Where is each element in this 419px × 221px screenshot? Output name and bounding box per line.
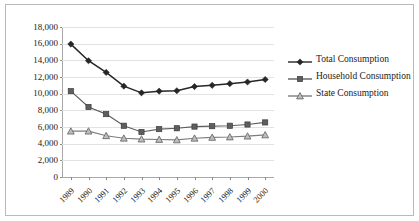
- x-axis-tick-mark: [177, 177, 178, 180]
- y-axis-tick-label: 2,000: [10, 156, 58, 165]
- x-axis-tick-mark: [195, 177, 196, 180]
- x-axis-tick-label: 1995: [159, 186, 182, 209]
- legend-diamond-icon: [287, 54, 313, 66]
- series-square: [68, 89, 268, 135]
- y-axis-tick-label: 4,000: [10, 139, 58, 148]
- legend-item: State Consumption: [287, 85, 419, 102]
- data-point-marker: [210, 124, 215, 129]
- x-axis-tick-mark: [89, 177, 90, 180]
- legend-label: State Consumption: [316, 88, 389, 99]
- x-axis-tick-mark: [124, 177, 125, 180]
- series-layer: [62, 27, 274, 177]
- plot-area: [62, 27, 274, 177]
- y-axis-tick-label: 18,000: [10, 23, 58, 32]
- x-axis-tick-mark: [142, 177, 143, 180]
- series-triangle: [67, 128, 268, 143]
- x-axis-tick-label: 1989: [53, 186, 76, 209]
- x-axis-tick-label: 1996: [176, 186, 199, 209]
- x-axis-tick-label: 1999: [229, 186, 252, 209]
- data-point-marker: [139, 129, 144, 134]
- x-axis-tick-label: 2000: [247, 186, 270, 209]
- series-line: [71, 91, 265, 132]
- data-point-marker: [104, 111, 109, 116]
- x-axis-tick-mark: [248, 177, 249, 180]
- x-axis-tick-label: 1992: [106, 186, 129, 209]
- chart-frame: 02,0004,0006,0008,00010,00012,00014,0001…: [5, 4, 414, 216]
- x-axis-tick-label: 1997: [194, 186, 217, 209]
- x-axis-tick-label: 1994: [141, 186, 164, 209]
- data-point-marker: [174, 126, 179, 131]
- data-point-marker: [262, 76, 268, 82]
- y-axis-tick-label: 10,000: [10, 89, 58, 98]
- y-axis-tick-label: 14,000: [10, 56, 58, 65]
- data-point-marker: [138, 90, 144, 96]
- series-line: [71, 131, 265, 140]
- data-point-marker: [191, 83, 197, 89]
- data-point-marker: [192, 124, 197, 129]
- series-line: [71, 44, 265, 93]
- data-point-marker: [209, 82, 215, 88]
- y-axis-tick-label: 16,000: [10, 39, 58, 48]
- legend-square-icon: [287, 71, 313, 83]
- x-axis-tick-label: 1990: [70, 186, 93, 209]
- data-point-marker: [227, 81, 233, 87]
- y-axis-tick-labels: 02,0004,0006,0008,00010,00012,00014,0001…: [8, 27, 58, 177]
- data-point-marker: [157, 126, 162, 131]
- chart-figure: 02,0004,0006,0008,00010,00012,00014,0001…: [0, 0, 419, 221]
- x-axis-tick-label: 1991: [88, 186, 111, 209]
- x-axis-tick-label: 1993: [123, 186, 146, 209]
- data-point-marker: [227, 123, 232, 128]
- gridline: [62, 177, 274, 178]
- data-point-marker: [121, 123, 126, 128]
- x-axis-tick-mark: [212, 177, 213, 180]
- data-point-marker: [244, 79, 250, 85]
- x-axis-tick-mark: [106, 177, 107, 180]
- legend-label: Household Consumption: [316, 71, 411, 82]
- data-point-marker: [68, 89, 73, 94]
- y-axis-tick-label: 0: [10, 173, 58, 182]
- y-axis-tick-label: 12,000: [10, 73, 58, 82]
- data-point-marker: [263, 120, 268, 125]
- data-point-marker: [86, 104, 91, 109]
- legend-item: Household Consumption: [287, 68, 419, 85]
- chart-legend: Total ConsumptionHousehold ConsumptionSt…: [287, 51, 419, 102]
- x-axis-tick-mark: [71, 177, 72, 180]
- y-axis-tick-label: 8,000: [10, 106, 58, 115]
- series-diamond: [68, 41, 269, 96]
- data-point-marker: [245, 122, 250, 127]
- x-axis-tick-mark: [159, 177, 160, 180]
- x-axis-tick-mark: [265, 177, 266, 180]
- legend-item: Total Consumption: [287, 51, 419, 68]
- x-axis-tick-label: 1998: [212, 186, 235, 209]
- x-axis-tick-mark: [230, 177, 231, 180]
- data-point-marker: [156, 88, 162, 94]
- y-axis-tick-label: 6,000: [10, 123, 58, 132]
- data-point-marker: [174, 88, 180, 94]
- legend-triangle-icon: [287, 88, 313, 100]
- legend-label: Total Consumption: [316, 54, 389, 65]
